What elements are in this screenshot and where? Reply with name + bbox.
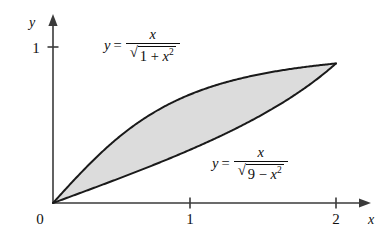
curve-upper-equals: = — [113, 38, 121, 53]
curve-lower-radicand: 9 − x2 — [246, 164, 284, 181]
curve-upper-lead: y — [104, 38, 110, 53]
x-tick-label-1: 1 — [186, 211, 194, 227]
curve-lower-equation-label: y = x √ 9 − x2 — [212, 145, 288, 181]
curve-upper-radicand: 1 + x2 — [138, 46, 176, 63]
curve-lower-denominator: √ 9 − x2 — [234, 162, 288, 181]
origin-label: 0 — [36, 211, 44, 227]
curve-lower-numerator: x — [251, 145, 269, 161]
curve-lower-radicand-prefix: 9 − — [248, 166, 271, 182]
curve-lower-fraction: x √ 9 − x2 — [234, 145, 288, 181]
curve-lower-radicand-exponent: 2 — [277, 165, 282, 175]
curve-upper-radicand-exponent: 2 — [169, 47, 174, 57]
x-axis-label: x — [367, 212, 375, 227]
curve-upper-radicand-prefix: 1 + — [140, 48, 163, 64]
graph-figure: y x 0 1 1 2 — [0, 0, 392, 246]
y-axis-arrowhead — [48, 14, 57, 26]
curve-upper-numerator: x — [143, 27, 161, 43]
x-axis-arrowhead — [359, 198, 371, 207]
y-tick-label-1: 1 — [32, 40, 40, 56]
shaded-region — [53, 63, 336, 203]
curve-lower-radical: √ 9 − x2 — [238, 164, 284, 181]
curve-upper-radical: √ 1 + x2 — [130, 46, 176, 63]
y-axis-label: y — [27, 15, 36, 30]
x-tick-label-2: 2 — [332, 211, 340, 227]
curve-lower-lead: y — [212, 156, 218, 171]
curve-upper-equation-label: y = x √ 1 + x2 — [104, 27, 180, 63]
radical-sign-icon: √ — [130, 45, 138, 62]
curve-upper-denominator: √ 1 + x2 — [126, 44, 180, 63]
radical-sign-icon: √ — [238, 163, 246, 180]
curve-lower-equals: = — [221, 156, 229, 171]
curve-upper-fraction: x √ 1 + x2 — [126, 27, 180, 63]
